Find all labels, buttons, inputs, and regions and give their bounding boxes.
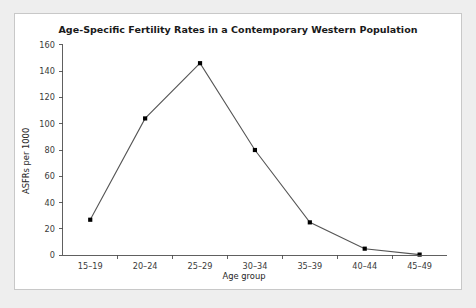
x-tick-label: 25–29 (188, 261, 213, 271)
data-point-marker (308, 220, 312, 224)
data-point-marker (418, 253, 422, 257)
y-axis: 020406080100120140160 (39, 40, 63, 260)
data-point-marker (143, 116, 147, 120)
data-point-marker (363, 247, 367, 251)
x-tick-label: 40–44 (352, 261, 377, 271)
y-tick-label: 120 (39, 92, 55, 102)
y-tick-label: 0 (50, 250, 55, 260)
y-tick-label: 60 (44, 171, 54, 181)
x-tick-label: 45–49 (407, 261, 432, 271)
y-tick-label: 40 (44, 198, 54, 208)
y-tick-label: 140 (39, 66, 55, 76)
y-axis-title: ASFRs per 1000 (21, 128, 31, 194)
x-axis-title: Age group (222, 271, 265, 281)
x-tick-label: 35–39 (297, 261, 322, 271)
y-tick-label: 20 (44, 224, 54, 234)
fertility-series-line (90, 63, 419, 254)
data-point-marker (198, 61, 202, 65)
y-tick-label: 100 (39, 119, 55, 129)
y-tick-label: 80 (44, 145, 54, 155)
x-tick-label: 20–24 (133, 261, 158, 271)
chart-figure: Age-Specific Fertility Rates in a Contem… (14, 13, 462, 290)
x-tick-label: 30–34 (243, 261, 268, 271)
fertility-series-markers (88, 61, 422, 257)
x-axis: 15–1920–2425–2930–3435–3940–4445–49 (78, 255, 432, 271)
data-point-marker (253, 148, 257, 152)
data-point-marker (88, 218, 92, 222)
y-tick-label: 160 (39, 40, 55, 50)
x-tick-label: 15–19 (78, 261, 103, 271)
fertility-rate-line-chart: Age-Specific Fertility Rates in a Contem… (15, 14, 461, 289)
chart-title: Age-Specific Fertility Rates in a Contem… (58, 24, 417, 35)
